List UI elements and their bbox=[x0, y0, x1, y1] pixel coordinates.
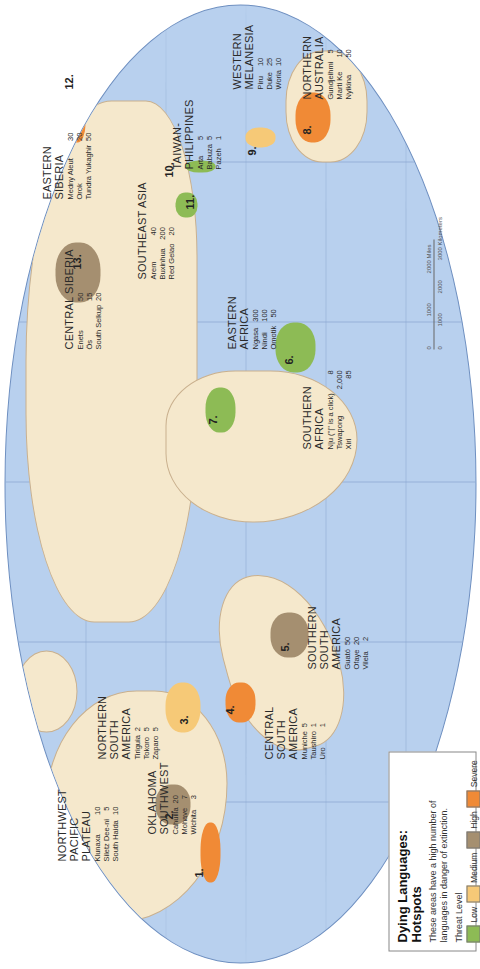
region-label-central-siberia: CENTRAL SIBERIA Enets50 Ös15 South Selku… bbox=[62, 249, 102, 349]
region-label-northern-australia: NORTHERNAUSTRALIA Gundjeihmi5 Marti Ke10… bbox=[300, 35, 352, 99]
legend-item-low: Low bbox=[466, 906, 480, 942]
region-label-northwest-pacific-plateau: NORTHWESTPACIFICPLATEAU Klunaxa10 Siletz… bbox=[55, 789, 119, 861]
hotspot-number-3: 3. bbox=[177, 715, 189, 724]
legend-item-high: High bbox=[466, 811, 480, 848]
legend-subtitle: Hotspots bbox=[409, 760, 423, 942]
region-label-southern-south-america: SOUTHERNSOUTHAMERICA Guató50 Ofaye20 Vil… bbox=[305, 606, 369, 669]
hotspot-number-11: 11. bbox=[183, 194, 195, 209]
region-label-eastern-siberia: EASTERNSIBERIA Medny Aleut30 Orok20 Tund… bbox=[40, 128, 92, 199]
hotspot-number-12: 12. bbox=[62, 74, 74, 89]
hotspot-number-9: 9. bbox=[245, 146, 257, 155]
region-label-central-south-america: CENTRALSOUTHAMERICA Muniche5 Taushiro1 U… bbox=[262, 706, 326, 759]
swatch-high-icon bbox=[466, 831, 480, 848]
hotspot-number-6: 6. bbox=[282, 355, 294, 364]
hotspot-number-8: 8. bbox=[300, 125, 312, 134]
hotspot-number-1: 1. bbox=[192, 868, 204, 877]
region-label-northern-south-america: NORTHERNSOUTHAMERICA Tiriguia2 Tokoro5 Z… bbox=[95, 695, 159, 759]
region-label-taiwan-philippines: TAIWAN-PHILIPPINES Arta5 Babuza5 Pazeh1 bbox=[170, 99, 222, 169]
legend-item-severe: Severe bbox=[466, 760, 480, 807]
region-label-southeast-asia: SOUTHEAST ASIA Arem40 Buxinhua200 Red Ge… bbox=[135, 182, 175, 279]
region-label-oklahoma-southwest: OKLAHOMASOUTHWEST Cahuilla20 Mohave7 Wic… bbox=[145, 762, 197, 834]
region-label-eastern-africa: EASTERNAFRICA Ngasa300 Nindi100 Omotik50 bbox=[225, 296, 277, 349]
hotspot-number-4: 4. bbox=[223, 705, 235, 714]
swatch-low-icon bbox=[466, 925, 480, 942]
hotspot-number-5: 5. bbox=[278, 642, 290, 651]
swatch-severe-icon bbox=[466, 790, 480, 807]
region-label-western-melanesia: WESTERNMELANESIA Piru10 Duke25 Woria10 bbox=[230, 24, 282, 89]
legend-title: Dying Languages: bbox=[395, 760, 409, 942]
legend-box: Dying Languages: Hotspots These areas ha… bbox=[388, 751, 476, 951]
land-greenland bbox=[15, 650, 77, 732]
region-label-southern-africa: SOUTHERNAFRICA N|u ("|" is a click)8 Tsw… bbox=[300, 366, 352, 449]
legend-description: These areas have a high number of langua… bbox=[427, 760, 449, 942]
swatch-medium-icon bbox=[466, 885, 480, 902]
legend-item-medium: Medium bbox=[466, 852, 480, 902]
threat-level-label: Threat Level bbox=[453, 760, 463, 942]
hotspot-number-7: 7. bbox=[206, 415, 218, 424]
